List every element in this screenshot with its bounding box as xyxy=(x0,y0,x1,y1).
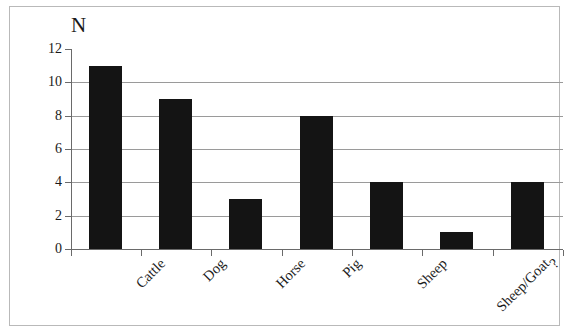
figure-frame: N 12 10 8 6 4 xyxy=(9,6,560,326)
y-tick-label-12: 12 xyxy=(32,42,62,56)
x-axis-labels: Cattle Dog Horse Pig Sheep Sheep/Goat ? xyxy=(71,256,563,336)
y-tick-label-4: 4 xyxy=(32,175,62,189)
y-tick-label-0: 0 xyxy=(32,242,62,256)
y-tick-12: 12 xyxy=(20,42,62,56)
y-tick-4: 4 xyxy=(20,175,62,189)
x-label-dog: Dog xyxy=(200,256,228,284)
x-label-cattle: Cattle xyxy=(133,256,168,291)
y-tick-label-10: 10 xyxy=(32,75,62,89)
y-tick-label-2: 2 xyxy=(32,209,62,223)
y-axis-title: N xyxy=(71,15,87,36)
bar-horse xyxy=(229,199,262,249)
x-label-sheep: Sheep xyxy=(414,256,449,291)
x-tick-mark-7 xyxy=(563,250,564,256)
bar-sheep-goat xyxy=(440,232,473,249)
x-label-horse: Horse xyxy=(273,256,308,291)
y-tick-10: 10 xyxy=(20,75,62,89)
y-tick-6: 6 xyxy=(20,142,62,156)
bar-dog xyxy=(159,99,192,249)
y-tick-label-6: 6 xyxy=(32,142,62,156)
bar-sheep xyxy=(370,182,403,249)
y-tick-2: 2 xyxy=(20,209,62,223)
y-tick-label-8: 8 xyxy=(32,109,62,123)
x-label-pig: Pig xyxy=(340,256,364,280)
x-axis-line xyxy=(71,249,563,250)
bars-layer xyxy=(71,49,563,249)
bar-pig xyxy=(300,116,333,249)
bar-unknown xyxy=(511,182,544,249)
chart-figure: N 12 10 8 6 4 xyxy=(0,0,576,336)
y-tick-0: 0 xyxy=(20,242,62,256)
x-label-sheep-goat: Sheep/Goat xyxy=(494,256,552,314)
y-tick-8: 8 xyxy=(20,109,62,123)
bar-cattle xyxy=(89,66,122,249)
